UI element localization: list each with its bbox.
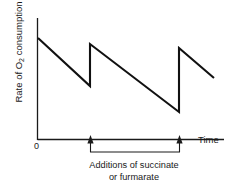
y-axis-label-prefix: Rate of O (13, 62, 24, 103)
y-axis-label-suffix: consumption (13, 1, 24, 58)
sawtooth-data-curve (38, 38, 214, 112)
addition-arrow-2 (176, 135, 182, 152)
figure-container: Rate of O2 consumption 0 Time Additions … (0, 0, 234, 194)
origin-tick-label: 0 (34, 141, 39, 151)
x-axis-label: Time (198, 134, 219, 145)
y-axis-label: Rate of O2 consumption (11, 0, 27, 114)
bracket-caption: Additions of succinate or furmarate (38, 159, 230, 183)
addition-arrow-1 (87, 135, 93, 152)
bracket-caption-line-2: or furmarate (38, 171, 230, 183)
y-axis-label-subscript: 2 (18, 58, 25, 62)
bracket-caption-line-1: Additions of succinate (38, 159, 230, 171)
